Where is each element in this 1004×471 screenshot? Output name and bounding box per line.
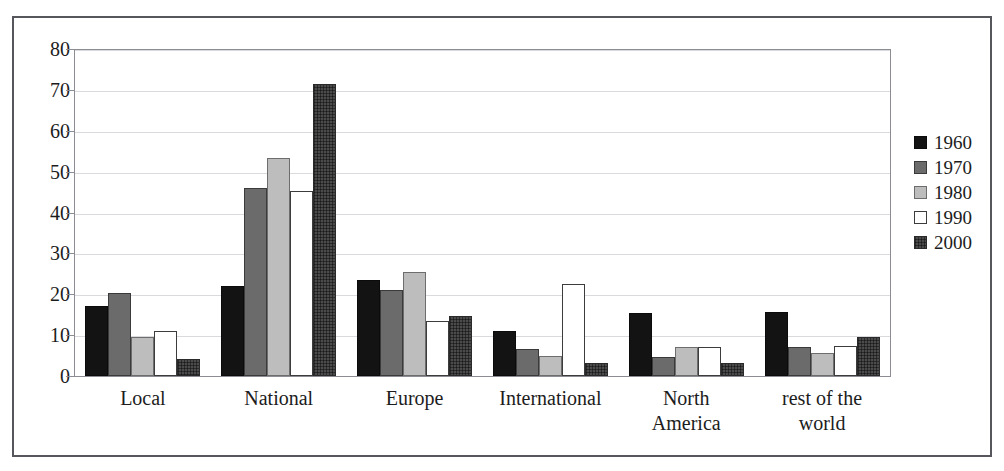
legend-label: 2000 (934, 233, 972, 252)
bar-local-2000 (177, 359, 200, 376)
bar-rest-of-the-world-1980 (811, 353, 834, 376)
bar-rest-of-the-world-1970 (788, 347, 811, 376)
y-axis-tick-mark (66, 335, 74, 336)
bar-north-america-1980 (675, 347, 698, 376)
y-axis-tick-mark (66, 213, 74, 214)
bar-national-1960 (221, 286, 244, 376)
y-axis-tick-mark (66, 294, 74, 295)
y-axis-tick-mark (66, 172, 74, 173)
bar-international-1990 (562, 284, 585, 376)
y-axis-tick-label: 70 (18, 80, 70, 100)
bar-europe-1970 (380, 290, 403, 376)
x-axis-label-line: rest of the (754, 386, 890, 411)
y-axis-tick-mark (66, 376, 74, 377)
x-axis-label-line: International (483, 386, 619, 411)
bar-chart: 01020304050607080 LocalNationalEuropeInt… (0, 0, 1004, 471)
legend-label: 1990 (934, 208, 972, 227)
x-axis-label-national: National (211, 386, 347, 411)
y-axis-tick-mark (66, 253, 74, 254)
x-axis-label-line: National (211, 386, 347, 411)
legend-item-1960: 1960 (914, 130, 974, 155)
bar-international-2000 (585, 363, 608, 376)
y-axis-tick-label: 40 (18, 203, 70, 223)
bar-rest-of-the-world-1990 (834, 346, 857, 376)
x-axis-label-local: Local (75, 386, 211, 411)
bar-group (347, 49, 483, 376)
bar-local-1960 (85, 306, 108, 376)
x-axis-label-europe: Europe (347, 386, 483, 411)
legend-label: 1980 (934, 183, 972, 202)
x-axis-label-line: Local (75, 386, 211, 411)
x-axis-labels: LocalNationalEuropeInternationalNorthAme… (75, 386, 890, 452)
y-axis-tick-mark (66, 49, 74, 50)
bar-national-1990 (290, 191, 313, 376)
legend: 19601970198019902000 (906, 122, 980, 263)
bar-rest-of-the-world-1960 (765, 312, 788, 376)
bar-rest-of-the-world-2000 (857, 337, 880, 376)
legend-item-1990: 1990 (914, 205, 974, 230)
x-axis-label-international: International (483, 386, 619, 411)
x-axis-label-rest-of-the-world: rest of theworld (754, 386, 890, 436)
y-axis-tick-label: 50 (18, 162, 70, 182)
y-axis-tick-label: 60 (18, 121, 70, 141)
bar-europe-1960 (357, 280, 380, 376)
x-axis-label-north-america: NorthAmerica (618, 386, 754, 436)
legend-swatch-icon (914, 161, 927, 174)
bar-europe-1980 (403, 272, 426, 376)
y-axis-tick-label: 30 (18, 243, 70, 263)
legend-swatch-icon (914, 211, 927, 224)
bar-europe-2000 (449, 316, 472, 376)
y-axis-tick-mark (66, 90, 74, 91)
bar-europe-1990 (426, 321, 449, 376)
bar-north-america-1970 (652, 357, 675, 376)
bar-national-1980 (267, 158, 290, 376)
bar-local-1990 (154, 331, 177, 376)
legend-swatch-icon (914, 136, 927, 149)
bar-group (618, 49, 754, 376)
chart-figure: 01020304050607080 LocalNationalEuropeInt… (0, 0, 1004, 471)
y-axis-tick-label: 10 (18, 325, 70, 345)
legend-item-1970: 1970 (914, 155, 974, 180)
bar-north-america-2000 (721, 363, 744, 376)
x-axis-label-line: America (618, 411, 754, 436)
legend-label: 1960 (934, 133, 972, 152)
bar-group (211, 49, 347, 376)
legend-label: 1970 (934, 158, 972, 177)
bar-national-1970 (244, 188, 267, 376)
bar-group (754, 49, 890, 376)
y-axis-tick-label: 20 (18, 284, 70, 304)
bar-international-1970 (516, 349, 539, 376)
bar-local-1980 (131, 337, 154, 376)
bars-layer (75, 49, 890, 376)
bar-north-america-1960 (629, 313, 652, 376)
legend-swatch-icon (914, 186, 927, 199)
y-axis-tick-label: 0 (18, 366, 70, 386)
x-axis-label-line: North (618, 386, 754, 411)
bar-national-2000 (313, 84, 336, 376)
x-axis-label-line: Europe (347, 386, 483, 411)
y-axis: 01020304050607080 (12, 49, 70, 377)
legend-item-2000: 2000 (914, 230, 974, 255)
bar-group (483, 49, 619, 376)
x-axis-label-line: world (754, 411, 890, 436)
bar-international-1960 (493, 331, 516, 376)
legend-swatch-icon (914, 236, 927, 249)
bar-local-1970 (108, 293, 131, 376)
bar-international-1980 (539, 356, 562, 376)
bar-group (75, 49, 211, 376)
legend-item-1980: 1980 (914, 180, 974, 205)
bar-north-america-1990 (698, 347, 721, 376)
y-axis-tick-mark (66, 131, 74, 132)
y-axis-tick-label: 80 (18, 39, 70, 59)
